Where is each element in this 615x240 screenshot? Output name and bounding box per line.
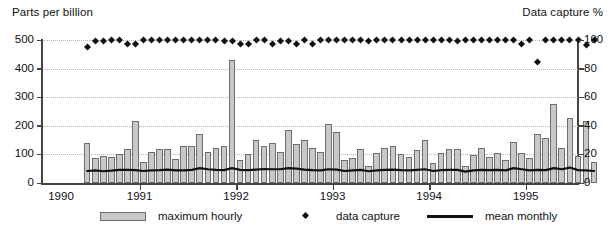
x-tick-label: 1994 xyxy=(416,190,442,202)
y-tick-label-right: 60 xyxy=(584,90,614,102)
y-tick-left xyxy=(37,125,42,127)
y-tick-left xyxy=(37,97,42,99)
y-tick-left xyxy=(37,183,42,185)
x-tick-label: 1993 xyxy=(320,190,346,202)
y-tick-label-right: 40 xyxy=(584,119,614,131)
x-tick-label: 1990 xyxy=(48,190,74,202)
legend-label-mean-monthly: mean monthly xyxy=(485,208,557,224)
y-tick-label-left: 100 xyxy=(2,147,34,159)
air-quality-chart: Parts per billion Data capture % 0100200… xyxy=(0,0,615,240)
x-tick-label: 1995 xyxy=(513,190,539,202)
bar-swatch-icon xyxy=(100,212,146,221)
y-tick-label-left: 300 xyxy=(2,90,34,102)
y-tick-left xyxy=(37,154,42,156)
y-tick-label-right: 0 xyxy=(584,176,614,188)
right-axis-title: Data capture % xyxy=(522,6,603,18)
y-tick-label-left: 400 xyxy=(2,62,34,74)
y-tick-left xyxy=(37,40,42,42)
y-tick-label-right: 80 xyxy=(584,62,614,74)
x-tick-label: 1991 xyxy=(127,190,153,202)
line-swatch-icon xyxy=(427,215,473,218)
left-axis-title: Parts per billion xyxy=(12,6,93,18)
chart-legend: maximum hourly data capture mean monthly xyxy=(0,208,615,232)
legend-label-data-capture: data capture xyxy=(336,208,400,224)
x-tick-label: 1992 xyxy=(223,190,249,202)
y-tick-left xyxy=(37,68,42,70)
y-tick-label-left: 500 xyxy=(2,33,34,45)
x-axis xyxy=(41,183,579,185)
legend-label-maximum-hourly: maximum hourly xyxy=(158,208,242,224)
line-series-mean-monthly xyxy=(43,40,578,183)
y-tick-label-left: 0 xyxy=(2,176,34,188)
plot-area xyxy=(43,40,578,183)
y-tick-label-right: 20 xyxy=(584,147,614,159)
y-tick-label-left: 200 xyxy=(2,119,34,131)
y-tick-label-right: 100 xyxy=(584,33,614,45)
diamond-marker-icon xyxy=(302,212,309,219)
